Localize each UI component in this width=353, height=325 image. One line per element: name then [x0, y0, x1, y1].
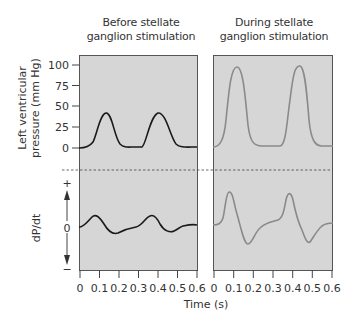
xtick-during-6: 0.6 — [323, 282, 341, 295]
ytick-0: 0 — [62, 142, 69, 155]
pressure-axis-label: Left ventricular pressure (mm Hg) — [16, 58, 42, 158]
ytick-25: 25 — [55, 121, 69, 134]
panel-before — [80, 56, 198, 271]
x-ticks-during — [214, 270, 332, 278]
x-ticks-before — [80, 270, 197, 278]
dpdt-plus: + — [62, 177, 71, 190]
ytick-50: 50 — [55, 100, 69, 113]
arrow-up-icon — [64, 190, 70, 200]
xtick-during-0: 0 — [211, 282, 218, 295]
pressure-label-line2: pressure (mm Hg) — [29, 58, 42, 158]
dpdt-zero: 0 — [64, 222, 71, 235]
xtick-before-5: 0.5 — [169, 282, 187, 295]
xtick-before-6: 0.6 — [188, 282, 206, 295]
xtick-before-2: 0.2 — [110, 282, 128, 295]
pressure-label-line1: Left ventricular — [16, 66, 29, 150]
pressure-ticks — [72, 65, 79, 148]
xtick-before-4: 0.4 — [149, 282, 167, 295]
xtick-during-5: 0.5 — [304, 282, 322, 295]
x-axis-label: Time (s) — [183, 298, 229, 311]
xtick-before-0: 0 — [77, 282, 84, 295]
xtick-before-3: 0.3 — [130, 282, 148, 295]
xtick-during-4: 0.4 — [284, 282, 302, 295]
panel-during — [214, 56, 333, 271]
ytick-100: 100 — [48, 59, 69, 72]
dpdt-axis-label: dP/dt — [30, 213, 43, 242]
ytick-75: 75 — [55, 80, 69, 93]
dpdt-label-text: dP/dt — [30, 213, 43, 242]
xtick-during-2: 0.2 — [245, 282, 263, 295]
chart-svg: 100 75 50 25 0 Left ventricular pressure… — [0, 0, 353, 325]
xtick-during-1: 0.1 — [225, 282, 243, 295]
xtick-during-3: 0.3 — [264, 282, 282, 295]
dpdt-minus: − — [62, 263, 71, 276]
xtick-before-1: 0.1 — [91, 282, 109, 295]
